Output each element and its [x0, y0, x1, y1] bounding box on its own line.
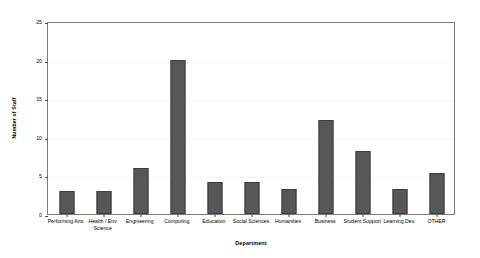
y-tick-label: 5 [39, 173, 42, 179]
bar-slot [233, 23, 270, 214]
bar[interactable] [319, 120, 334, 214]
bar-slot [159, 23, 196, 214]
bar[interactable] [59, 191, 74, 214]
y-tick-mark [45, 139, 48, 140]
bar[interactable] [207, 182, 222, 214]
y-axis-tick-labels: 0510152025 [22, 22, 42, 215]
y-tick-label: 25 [36, 19, 42, 25]
bar-slot [345, 23, 382, 214]
bar-slot [308, 23, 345, 214]
x-tick-mark [177, 214, 178, 217]
y-tick-mark [45, 62, 48, 63]
x-tick-mark [400, 214, 401, 217]
bar-chart-figure: Number of Staff 0510152025 Performing Ar… [0, 0, 480, 258]
bar-slot [122, 23, 159, 214]
y-tick-mark [45, 23, 48, 24]
x-tick-mark [66, 214, 67, 217]
bar[interactable] [96, 191, 111, 214]
y-tick-mark [45, 177, 48, 178]
bar[interactable] [430, 173, 445, 214]
x-axis-tick-labels: Performing ArtsHealth / Env ScienceEngin… [47, 218, 455, 240]
bar[interactable] [356, 151, 371, 214]
x-tick-mark [326, 214, 327, 217]
y-tick-label: 10 [36, 135, 42, 141]
x-tick-label: OTHER [413, 218, 459, 225]
bar-slot [419, 23, 456, 214]
bar-slot [85, 23, 122, 214]
x-tick-mark [363, 214, 364, 217]
x-tick-mark [140, 214, 141, 217]
y-tick-mark [45, 100, 48, 101]
x-tick-mark [289, 214, 290, 217]
bar[interactable] [244, 182, 259, 214]
x-axis-title: Department [47, 240, 455, 246]
bar[interactable] [282, 189, 297, 214]
bar-slot [48, 23, 85, 214]
y-tick-label: 15 [36, 96, 42, 102]
x-tick-mark [437, 214, 438, 217]
bar-slot [196, 23, 233, 214]
bar[interactable] [393, 189, 408, 214]
bar[interactable] [170, 60, 185, 214]
x-tick-mark [103, 214, 104, 217]
x-tick-mark [214, 214, 215, 217]
bar[interactable] [133, 168, 148, 214]
y-axis-title: Number of Staff [11, 58, 17, 178]
x-tick-mark [251, 214, 252, 217]
bar-slot [271, 23, 308, 214]
bar-series [48, 23, 454, 214]
bar-slot [382, 23, 419, 214]
y-tick-label: 20 [36, 58, 42, 64]
plot-area [47, 22, 455, 215]
y-tick-mark [45, 216, 48, 217]
